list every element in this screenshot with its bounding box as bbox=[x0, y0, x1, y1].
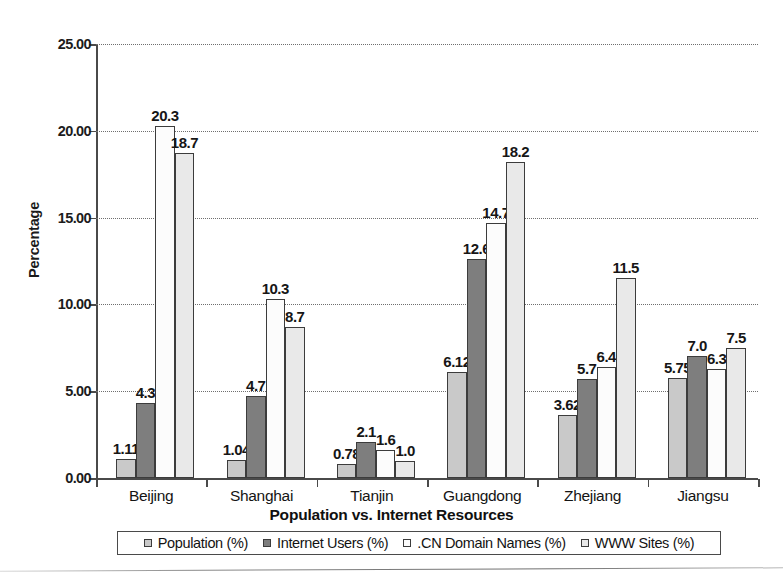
bar[interactable] bbox=[395, 461, 415, 478]
x-tick-mark bbox=[648, 479, 650, 487]
legend-item[interactable]: Internet Users (%) bbox=[263, 535, 388, 551]
bar-group: 5.757.06.37.5 bbox=[668, 44, 746, 478]
x-tick-label: Zhejiang bbox=[564, 487, 621, 505]
gridline bbox=[96, 391, 758, 392]
bar[interactable] bbox=[506, 162, 526, 478]
x-tick-label: Jiangsu bbox=[677, 487, 728, 505]
bar[interactable] bbox=[616, 278, 636, 478]
bar[interactable] bbox=[577, 379, 597, 478]
bar[interactable] bbox=[136, 403, 156, 478]
bar-value-label: 2.1 bbox=[356, 423, 375, 440]
x-tick-label: Beijing bbox=[129, 487, 173, 505]
bar-group: 1.044.710.38.7 bbox=[227, 44, 305, 478]
legend-swatch-icon bbox=[403, 539, 411, 547]
x-tick-mark bbox=[427, 479, 429, 487]
bar-value-label: 6.4 bbox=[597, 348, 616, 365]
chart-legend: Population (%)Internet Users (%).CN Doma… bbox=[117, 531, 721, 555]
bar[interactable] bbox=[175, 153, 195, 478]
bar-group: 6.1212.614.718.2 bbox=[447, 44, 525, 478]
bar[interactable] bbox=[376, 450, 396, 478]
bar-value-label: 18.2 bbox=[502, 143, 529, 160]
x-tick-label: Guangdong bbox=[443, 487, 521, 505]
bar-value-label: 8.7 bbox=[285, 308, 304, 325]
legend-swatch-icon bbox=[263, 539, 271, 547]
legend-label: Population (%) bbox=[158, 535, 248, 551]
bar-value-label: 7.5 bbox=[726, 329, 745, 346]
bar[interactable] bbox=[687, 356, 707, 478]
y-tick-label: 20.00 bbox=[58, 123, 91, 139]
bar-value-label: 4.3 bbox=[136, 384, 155, 401]
chart-title: Population vs. Internet Resources bbox=[0, 506, 783, 524]
bar-value-label: 20.3 bbox=[151, 107, 178, 124]
y-tick-label: 25.00 bbox=[58, 36, 91, 52]
bar[interactable] bbox=[467, 259, 487, 478]
bar[interactable] bbox=[447, 372, 467, 478]
bar[interactable] bbox=[285, 327, 305, 478]
bar[interactable] bbox=[486, 223, 506, 478]
bar-value-label: 18.7 bbox=[171, 134, 198, 151]
y-tick-label: 10.00 bbox=[58, 296, 91, 312]
x-tick-mark bbox=[96, 479, 98, 487]
bar[interactable] bbox=[668, 378, 688, 478]
bar[interactable] bbox=[356, 442, 376, 478]
gridline bbox=[96, 131, 758, 132]
legend-swatch-icon bbox=[581, 539, 589, 547]
gridline bbox=[96, 44, 758, 45]
legend-label: Internet Users (%) bbox=[277, 535, 388, 551]
legend-item[interactable]: .CN Domain Names (%) bbox=[403, 535, 566, 551]
bar-chart-figure: Percentage 0.005.0010.0015.0020.0025.00 … bbox=[0, 0, 783, 584]
bar-group: 1.114.320.318.7 bbox=[116, 44, 194, 478]
plot-area: 1.114.320.318.71.044.710.38.70.782.11.61… bbox=[96, 44, 758, 478]
bar[interactable] bbox=[155, 126, 175, 478]
bar-value-label: 10.3 bbox=[262, 280, 289, 297]
y-tick-label: 5.00 bbox=[65, 383, 91, 399]
bar[interactable] bbox=[337, 464, 357, 478]
y-axis-title: Percentage bbox=[26, 160, 42, 320]
legend-swatch-icon bbox=[144, 539, 152, 547]
bar[interactable] bbox=[246, 396, 266, 478]
bar-value-label: 1.0 bbox=[395, 442, 414, 459]
legend-item[interactable]: WWW Sites (%) bbox=[581, 535, 694, 551]
x-tick-mark bbox=[317, 479, 319, 487]
bar-value-label: 11.5 bbox=[613, 259, 639, 276]
bar[interactable] bbox=[266, 299, 286, 478]
legend-label: .CN Domain Names (%) bbox=[417, 535, 566, 551]
bar[interactable] bbox=[558, 415, 578, 478]
bar-value-label: 6.3 bbox=[707, 350, 726, 367]
bar-group: 3.625.76.411.5 bbox=[558, 44, 636, 478]
x-tick-label: Shanghai bbox=[230, 487, 293, 505]
x-tick-mark bbox=[206, 479, 208, 487]
bar-value-label: 4.7 bbox=[246, 377, 265, 394]
bar-value-label: 5.7 bbox=[577, 360, 596, 377]
bar[interactable] bbox=[597, 367, 617, 478]
x-tick-mark bbox=[537, 479, 539, 487]
bar-value-label: 1.6 bbox=[376, 431, 395, 448]
bar[interactable] bbox=[116, 459, 136, 478]
bar-value-label: 7.0 bbox=[687, 337, 706, 354]
legend-item[interactable]: Population (%) bbox=[144, 535, 248, 551]
gridline bbox=[96, 218, 758, 219]
gridline bbox=[96, 304, 758, 305]
x-tick-mark bbox=[758, 479, 760, 487]
x-tick-label: Tianjin bbox=[350, 487, 393, 505]
legend-label: WWW Sites (%) bbox=[595, 535, 694, 551]
y-tick-label: 15.00 bbox=[58, 210, 91, 226]
bar[interactable] bbox=[227, 460, 247, 478]
bar[interactable] bbox=[726, 348, 746, 478]
bar[interactable] bbox=[707, 369, 727, 478]
bar-group: 0.782.11.61.0 bbox=[337, 44, 415, 478]
y-tick-label: 0.00 bbox=[65, 470, 91, 486]
